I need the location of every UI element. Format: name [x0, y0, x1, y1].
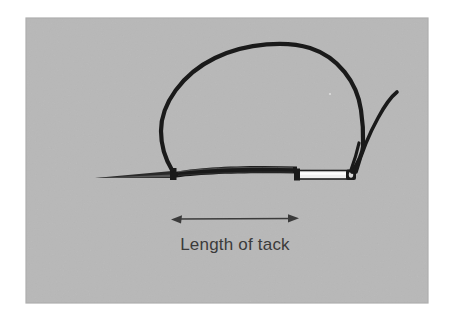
photo-plate — [26, 18, 428, 303]
photo-grain-overlay — [26, 18, 428, 303]
needle-shaft-highlight — [300, 173, 350, 175]
needle-shaft — [297, 171, 353, 180]
caption-length-of-tack: Length of tack — [180, 235, 290, 254]
figure-root: Length of tack — [0, 0, 450, 320]
photo-speck — [329, 93, 331, 95]
tack-diagram-figure: Length of tack — [0, 0, 450, 320]
dimension-line — [176, 218, 294, 219]
